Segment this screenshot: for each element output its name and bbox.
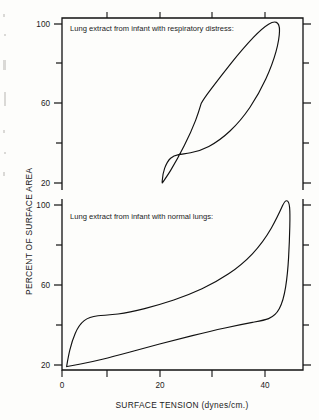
top-panel-frame <box>62 18 303 190</box>
bottom-panel-ytick-100: 100 <box>36 201 50 210</box>
xtick-0: 0 <box>60 381 65 390</box>
bottom-panel-left-ticks <box>54 205 62 365</box>
figure-container: PERCENT OF SURFACE AREA <box>0 0 319 420</box>
bottom-panel-hysteresis-curve <box>67 201 290 367</box>
bottom-panel-ytick-20: 20 <box>41 361 51 370</box>
top-panel-right-ticks <box>303 24 311 183</box>
xtick-20: 20 <box>155 381 165 390</box>
bottom-panel-ytick-60: 60 <box>41 281 51 290</box>
panel-respiratory-distress: 100 60 20 Lung extract from infant with … <box>36 12 311 190</box>
top-panel-hysteresis-curve <box>162 22 279 183</box>
two-panel-hysteresis-chart: PERCENT OF SURFACE AREA <box>0 0 319 420</box>
bottom-panel-annotation: Lung extract from infant with normal lun… <box>70 212 213 221</box>
bottom-panel-right-ticks <box>303 205 311 365</box>
top-panel-ytick-60: 60 <box>41 99 51 108</box>
top-panel-ytick-100: 100 <box>36 20 50 29</box>
top-panel-annotation: Lung extract from infant with respirator… <box>70 24 234 33</box>
top-panel-top-ticks <box>107 12 265 18</box>
bottom-panel-frame <box>62 199 303 370</box>
top-panel-left-ticks <box>54 24 62 183</box>
y-axis-title: PERCENT OF SURFACE AREA <box>24 168 34 295</box>
x-axis-title: SURFACE TENSION (dynes/cm.) <box>115 400 248 410</box>
panel-normal-lungs: 100 60 20 0 20 40 Lung extract from infa… <box>36 199 311 390</box>
bottom-panel-bottom-ticks <box>62 370 265 377</box>
xtick-40: 40 <box>260 381 270 390</box>
top-panel-ytick-20: 20 <box>41 179 51 188</box>
